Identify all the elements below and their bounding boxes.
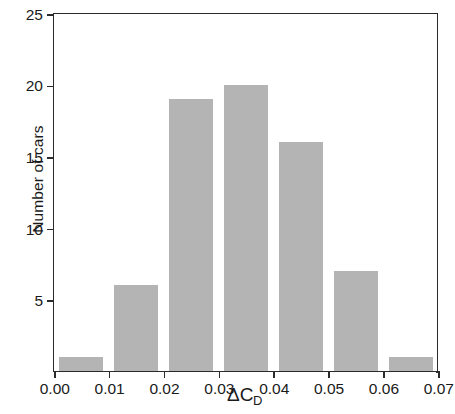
x-axis-tick: 0.01 [109, 371, 111, 378]
x-axis-tick: 0.06 [383, 371, 385, 378]
x-axis-title: ΔCD [53, 385, 437, 404]
x-axis-tick: 0.05 [328, 371, 330, 378]
y-axis-title: Number of cars [29, 69, 47, 289]
x-axis-tick: 0.03 [219, 371, 221, 378]
y-axis-tick-label: 5 [34, 293, 43, 309]
y-axis-tick-label: 15 [26, 150, 43, 166]
histogram-bar [59, 357, 103, 371]
y-axis-tick-label: 10 [26, 222, 43, 238]
x-axis-tick: 0.07 [438, 371, 440, 378]
histogram-figure: Number of cars 510152025 0.000.010.020.0… [0, 0, 455, 414]
histogram-bar [114, 285, 158, 371]
histogram-bar [279, 142, 323, 371]
x-axis-tick: 0.02 [164, 371, 166, 378]
bar-series [54, 14, 437, 371]
y-axis-tick-label: 20 [26, 79, 43, 95]
y-axis-tick: 15 [47, 157, 54, 159]
x-axis-title-subscript: D [253, 393, 262, 408]
y-axis-tick: 10 [47, 229, 54, 231]
histogram-bar [334, 271, 378, 371]
y-axis-tick: 20 [47, 86, 54, 88]
x-axis-tick: 0.00 [54, 371, 56, 378]
x-axis-tick: 0.04 [273, 371, 275, 378]
histogram-bar [224, 85, 268, 371]
y-axis-tick: 5 [47, 300, 54, 302]
histogram-bar [169, 99, 213, 371]
y-axis-tick-label: 25 [26, 7, 43, 23]
y-axis-tick: 25 [47, 14, 54, 16]
plot-area: 510152025 0.000.010.020.030.040.050.060.… [53, 14, 437, 372]
histogram-bar [389, 357, 433, 371]
x-axis-title-main: ΔC [227, 384, 253, 405]
